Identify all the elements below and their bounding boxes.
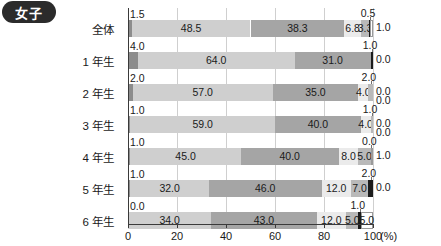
bar-segment bbox=[371, 116, 373, 133]
segment-value-label: 48.5 bbox=[181, 23, 201, 34]
segment-value-label: 5.0 bbox=[357, 151, 372, 162]
axis-tick bbox=[275, 224, 276, 228]
segment-value-label: 12.0 bbox=[326, 183, 346, 194]
segment-value-label: 46.0 bbox=[255, 183, 275, 194]
bar-segment: 31.0 bbox=[295, 52, 371, 69]
chart-rows: 1.50.51.0全体48.538.36.83.34.01.00.01 年生64… bbox=[0, 0, 441, 224]
segment-value-label: 32.0 bbox=[159, 183, 179, 194]
row-category-label: 5 年生 bbox=[0, 181, 120, 197]
bar-segment: 32.0 bbox=[130, 180, 208, 197]
bar-segment: 46.0 bbox=[209, 180, 322, 197]
x-axis-unit: (%) bbox=[380, 230, 397, 242]
axis-tick-label: 60 bbox=[269, 230, 281, 242]
segment-value-label: 7.0 bbox=[352, 183, 367, 194]
axis-tick bbox=[324, 224, 325, 228]
chart-row: 5 年生32.046.012.07.0 bbox=[0, 168, 441, 200]
bar-segment: 5.0 bbox=[346, 212, 358, 229]
axis-tick-label: 20 bbox=[171, 230, 183, 242]
gender-badge: 女子 bbox=[2, 1, 56, 23]
bar-segment: 45.0 bbox=[130, 148, 240, 165]
y-axis-line bbox=[128, 8, 129, 224]
bar-segment: 57.0 bbox=[133, 84, 273, 101]
bar-segment: 4.0 bbox=[358, 84, 368, 101]
chart-row: 全体48.538.36.83.3 bbox=[0, 8, 441, 40]
chart-row: 1 年生64.031.0 bbox=[0, 40, 441, 72]
bar-segment bbox=[371, 148, 373, 165]
bar-segment: 4.0 bbox=[361, 116, 371, 133]
bar-segment: 12.0 bbox=[317, 212, 346, 229]
bar-segment: 38.3 bbox=[251, 20, 345, 37]
axis-tick-label: 40 bbox=[220, 230, 232, 242]
axis-tick-label: 0 bbox=[125, 230, 131, 242]
segment-value-label: 35.0 bbox=[305, 87, 325, 98]
stacked-bar-chart: 女子 1.50.51.0全体48.538.36.83.34.01.00.01 年… bbox=[0, 0, 441, 246]
stacked-bar: 45.040.08.05.0 bbox=[128, 148, 373, 165]
segment-value-label: 8.0 bbox=[341, 151, 356, 162]
stacked-bar: 64.031.0 bbox=[128, 52, 373, 69]
chart-row: 3 年生59.040.04.0 bbox=[0, 104, 441, 136]
segment-value-label: 45.0 bbox=[175, 151, 195, 162]
bar-segment: 5.0 bbox=[361, 212, 373, 229]
bar-segment: 64.0 bbox=[138, 52, 295, 69]
segment-value-label: 40.0 bbox=[279, 151, 299, 162]
row-category-label: 全体 bbox=[0, 21, 120, 37]
bar-segment bbox=[368, 84, 373, 101]
bar-segment bbox=[128, 52, 138, 69]
bar-segment bbox=[371, 52, 373, 69]
segment-value-label: 38.3 bbox=[287, 23, 307, 34]
row-category-label: 1 年生 bbox=[0, 53, 120, 69]
bar-segment: 59.0 bbox=[130, 116, 275, 133]
row-category-label: 2 年生 bbox=[0, 85, 120, 101]
stacked-bar: 57.035.04.0 bbox=[128, 84, 373, 101]
bar-segment: 34.0 bbox=[128, 212, 211, 229]
axis-tick bbox=[373, 224, 374, 228]
x-axis-line bbox=[128, 224, 373, 225]
segment-value-label: 40.0 bbox=[308, 119, 328, 130]
segment-value-label: 31.0 bbox=[322, 55, 342, 66]
segment-value-label: 64.0 bbox=[206, 55, 226, 66]
bar-segment: 40.0 bbox=[241, 148, 339, 165]
chart-row: 4 年生45.040.08.05.0 bbox=[0, 136, 441, 168]
stacked-bar: 32.046.012.07.0 bbox=[128, 180, 373, 197]
row-category-label: 6 年生 bbox=[0, 213, 120, 229]
chart-row: 2 年生57.035.04.0 bbox=[0, 72, 441, 104]
bar-segment bbox=[370, 20, 372, 37]
chart-row: 6 年生34.043.012.05.05.0 bbox=[0, 200, 441, 232]
stacked-bar: 59.040.04.0 bbox=[128, 116, 373, 133]
gender-badge-label: 女子 bbox=[15, 3, 43, 22]
bar-segment: 12.0 bbox=[322, 180, 351, 197]
bar-segment: 5.0 bbox=[358, 148, 370, 165]
axis-tick bbox=[177, 224, 178, 228]
bar-segment: 43.0 bbox=[211, 212, 316, 229]
bar-segment bbox=[368, 180, 373, 197]
bar-segment: 48.5 bbox=[132, 20, 251, 37]
bar-segment: 7.0 bbox=[351, 180, 368, 197]
bar-segment: 40.0 bbox=[275, 116, 361, 133]
axis-tick-label: 80 bbox=[318, 230, 330, 242]
stacked-bar: 34.043.012.05.05.0 bbox=[128, 212, 373, 229]
axis-tick bbox=[128, 224, 129, 228]
stacked-bar: 48.538.36.83.3 bbox=[128, 20, 373, 37]
bar-segment: 35.0 bbox=[273, 84, 359, 101]
row-category-label: 4 年生 bbox=[0, 149, 120, 165]
segment-value-label: 59.0 bbox=[192, 119, 212, 130]
bar-segment: 3.3 bbox=[361, 20, 369, 37]
axis-tick bbox=[226, 224, 227, 228]
bar-segment: 8.0 bbox=[339, 148, 359, 165]
segment-value-label: 57.0 bbox=[192, 87, 212, 98]
row-category-label: 3 年生 bbox=[0, 117, 120, 133]
